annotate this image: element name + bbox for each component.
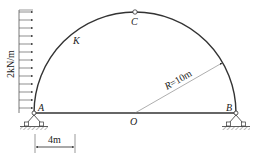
arch-diagram: 2kN/m R=10m C K O A B 4m	[0, 0, 258, 157]
label-o: O	[130, 116, 137, 127]
support-a	[20, 111, 48, 130]
label-c: C	[131, 16, 138, 27]
label-a: A	[37, 102, 45, 113]
label-b: B	[226, 102, 232, 113]
dimension-label: 4m	[48, 134, 61, 145]
distributed-load	[19, 10, 33, 113]
radius-line	[135, 63, 222, 113]
hinge-c	[133, 10, 137, 14]
support-b	[222, 111, 250, 130]
label-k: K	[72, 35, 81, 46]
arch-curve	[34, 12, 236, 113]
load-label: 2kN/m	[5, 50, 16, 78]
